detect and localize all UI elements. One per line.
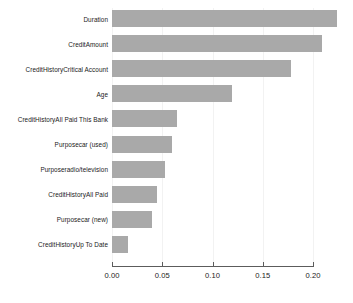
tick-label: 0.20 <box>306 271 321 280</box>
category-label: CreditHistoryUp To Date <box>38 240 108 250</box>
tick-mark <box>263 262 264 267</box>
category-label: Age <box>96 90 108 100</box>
tick-mark <box>313 262 314 267</box>
tick-mark <box>112 262 113 267</box>
tick-mark <box>162 262 163 267</box>
category-label: CreditHistoryAll Paid This Bank <box>18 115 108 125</box>
category-label: Duration <box>83 15 108 25</box>
tick-label: 0.15 <box>255 271 270 280</box>
category-label: CreditAmount <box>68 40 108 50</box>
category-label: CreditHistoryAll Paid <box>48 190 108 200</box>
variable-importance-bar-chart: DurationCreditAmountCreditHistoryCritica… <box>0 0 353 303</box>
category-axis-labels: DurationCreditAmountCreditHistoryCritica… <box>0 8 353 266</box>
category-label: Purposecar (used) <box>55 140 108 150</box>
tick-mark <box>213 262 214 267</box>
category-label: Purposecar (new) <box>57 215 108 225</box>
tick-label: 0.05 <box>155 271 170 280</box>
category-label: CreditHistoryCritical Account <box>26 65 108 75</box>
tick-label: 0.00 <box>105 271 120 280</box>
tick-label: 0.10 <box>205 271 220 280</box>
category-label: Purposeradio/television <box>40 165 108 175</box>
